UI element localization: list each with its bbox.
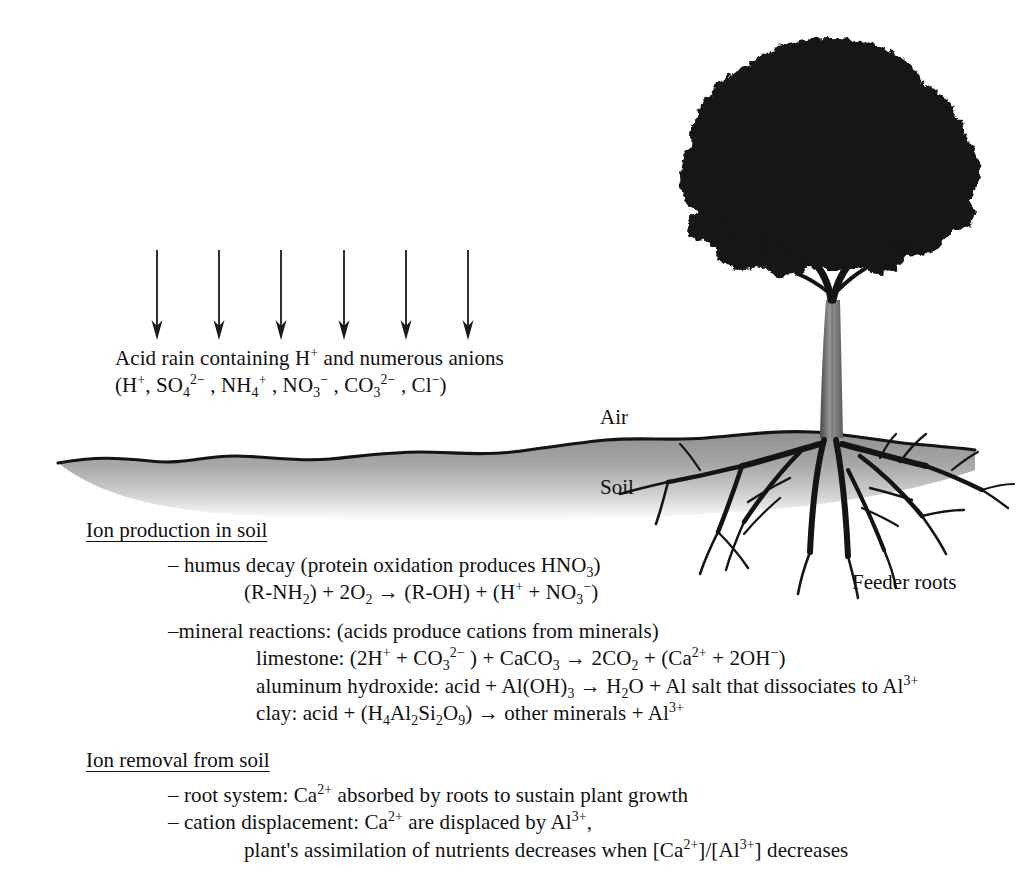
- root-system-line: – root system: Ca2+ absorbed by roots to…: [168, 782, 848, 809]
- tree: [620, 38, 1014, 598]
- heading-ion-removal: Ion removal from soil: [86, 748, 270, 773]
- humus-decay-equation: (R-NH2) + 2O2 → (R-OH) + (H+ + NO3−): [168, 579, 601, 606]
- ground-band: [58, 432, 975, 521]
- mineral-reactions-intro: –mineral reactions: (acids produce catio…: [168, 618, 918, 645]
- diagram-page: Acid rain containing H+ and numerous ani…: [0, 0, 1030, 874]
- scene-illustration: [0, 0, 1030, 874]
- humus-decay-line: – humus decay (protein oxidation produce…: [168, 552, 601, 579]
- air-label: Air: [600, 405, 628, 430]
- mineral-reactions-block: –mineral reactions: (acids produce catio…: [168, 618, 918, 727]
- limestone-equation: limestone: (2H+ + CO32− ) + CaCO3 → 2CO2…: [168, 645, 918, 672]
- cation-displacement-line1: – cation displacement: Ca2+ are displace…: [168, 809, 848, 836]
- cation-displacement-line2: plant's assimilation of nutrients decrea…: [168, 837, 848, 864]
- humus-decay-block: – humus decay (protein oxidation produce…: [168, 552, 601, 607]
- tree-trunk: [820, 300, 843, 438]
- acid-rain-arrowheads: [152, 320, 474, 340]
- tree-branches: [724, 174, 938, 300]
- acid-rain-caption-line2: (H+, SO42− , NH4+ , NO3− , CO32− , Cl−): [115, 372, 504, 399]
- acid-rain-caption: Acid rain containing H+ and numerous ani…: [115, 345, 504, 400]
- acid-rain-arrows: [157, 250, 468, 326]
- feeder-roots-label: Feeder roots: [852, 570, 956, 595]
- heading-ion-production: Ion production in soil: [86, 518, 267, 543]
- ion-removal-block: – root system: Ca2+ absorbed by roots to…: [168, 782, 848, 864]
- canopy-lower-clumps: [686, 198, 974, 277]
- aluminum-hydroxide-equation: aluminum hydroxide: acid + Al(OH)3 → H2O…: [168, 673, 918, 700]
- tree-canopy: [680, 38, 980, 270]
- soil-label: Soil: [600, 475, 634, 500]
- clay-equation: clay: acid + (H4Al2Si2O9) → other minera…: [168, 700, 918, 727]
- acid-rain-caption-line1: Acid rain containing H+ and numerous ani…: [115, 345, 504, 372]
